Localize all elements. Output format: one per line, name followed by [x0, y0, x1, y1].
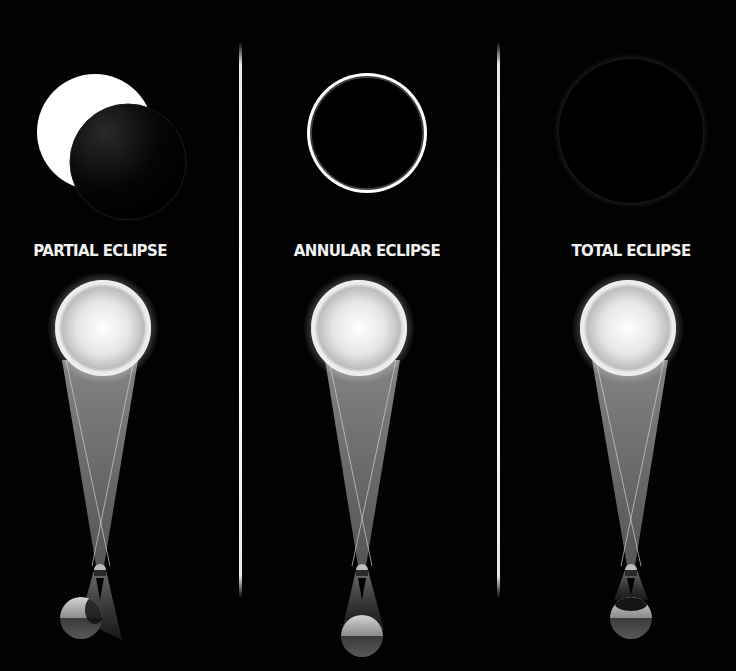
partial-beam [62, 360, 138, 640]
annular-beam [325, 360, 400, 630]
total-earth [609, 596, 653, 640]
total-eclipse-illustration [553, 53, 709, 209]
eclipse-diagram [0, 0, 736, 671]
partial-small-moon [94, 564, 106, 576]
annular-eclipse-illustration [307, 73, 427, 193]
total-small-moon [625, 564, 637, 576]
total-beam [592, 360, 668, 600]
annular-sun [303, 272, 415, 384]
partial-sun [47, 272, 159, 384]
partial-eclipse-illustration [37, 74, 186, 220]
total-sun [572, 272, 684, 384]
annular-small-moon [356, 564, 368, 576]
total-eclipse-label: TOTAL ECLIPSE [571, 242, 690, 260]
annular-eclipse-label: ANNULAR ECLIPSE [294, 242, 440, 260]
partial-eclipse-label: PARTIAL ECLIPSE [33, 242, 167, 260]
